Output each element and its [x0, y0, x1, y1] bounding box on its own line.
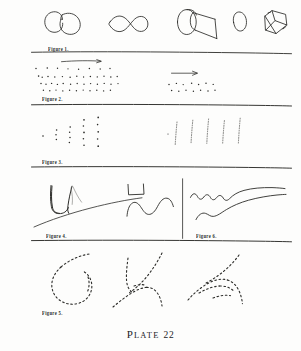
figure-4-strokes — [51, 186, 72, 214]
figure-3-extra-dots — [167, 133, 168, 134]
figure-5-branch — [113, 253, 162, 307]
rule-2 — [32, 104, 292, 106]
figure-4-light-strokes — [71, 187, 82, 205]
figure-3-strokes — [175, 118, 240, 145]
figure-2-label: Figure 2. — [42, 96, 63, 102]
figure-4-bracket — [128, 184, 144, 195]
rule-3 — [32, 167, 292, 169]
plate-page: Figure 1. Figure 2. Figure 3. Figure 4. … — [0, 0, 301, 351]
figure-5-arch — [188, 255, 242, 304]
figure-1-shapes — [45, 10, 287, 39]
figure-6-waves — [191, 188, 287, 220]
figure-3-label: Figure 3. — [42, 159, 63, 165]
plate-number: 22 — [164, 330, 175, 340]
plate-title-rest: LATE — [134, 331, 160, 340]
figure-4-diagonal — [34, 198, 142, 227]
rule-1 — [32, 52, 292, 54]
plate-title-initial: P — [127, 328, 134, 340]
figure-2-arrows — [62, 60, 198, 76]
plate-title: PLATE22 — [0, 328, 301, 340]
plate-artwork — [0, 0, 301, 351]
figure-5-dotted — [52, 254, 92, 304]
figure-4-wave — [127, 198, 173, 216]
figure-3-dots — [42, 117, 99, 147]
figure-6-label: Figure 6. — [196, 233, 217, 239]
figure-5-label: Figure 5. — [42, 310, 63, 316]
figure-4-label: Figure 4. — [46, 233, 67, 239]
figure-1-label: Figure 1. — [48, 46, 69, 52]
figure-2-dots — [35, 67, 215, 92]
rule-4 — [32, 240, 292, 242]
